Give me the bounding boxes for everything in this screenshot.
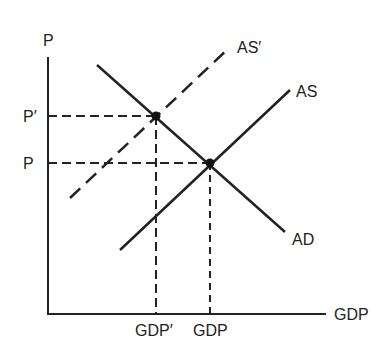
p-label: P <box>23 155 34 172</box>
as-ad-chart: P GDP AS′ AS AD P′ P GDP′ GDP <box>0 0 390 354</box>
as-curve <box>120 90 290 250</box>
y-axis-label: P <box>43 32 54 49</box>
p-prime-label: P′ <box>23 108 37 125</box>
equilibrium-point-prime <box>152 112 161 121</box>
as-label: AS <box>296 83 317 100</box>
ad-label: AD <box>292 231 314 248</box>
ad-curve <box>97 65 285 232</box>
as-prime-label: AS′ <box>237 39 261 56</box>
equilibrium-point <box>206 159 215 168</box>
as-prime-curve <box>70 47 230 198</box>
gdp-prime-label: GDP′ <box>135 322 173 339</box>
gdp-tick-label: GDP <box>193 322 228 339</box>
chart-container: P GDP AS′ AS AD P′ P GDP′ GDP <box>0 0 390 354</box>
x-axis-label: GDP <box>334 306 369 323</box>
